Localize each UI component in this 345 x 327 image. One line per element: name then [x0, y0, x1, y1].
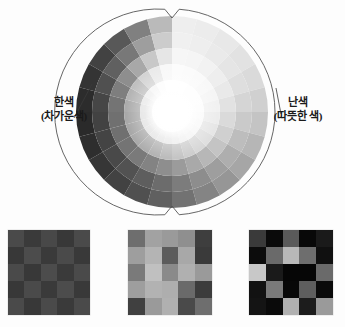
swatch-cell	[178, 247, 195, 264]
swatch-cell	[283, 281, 300, 298]
label-cool-sub: (차가운색)	[18, 110, 110, 124]
swatch-cell	[57, 230, 73, 247]
color-wheel-figure: 한색 (차가운색) 난색 (따뜻한 색)	[0, 0, 345, 218]
swatch-cell	[283, 298, 300, 315]
swatch-cell	[249, 281, 266, 298]
swatch-cell	[283, 264, 300, 281]
swatch-cell	[195, 298, 212, 315]
swatch-cell	[8, 281, 24, 298]
swatch-cell	[316, 264, 333, 281]
swatch-cell	[266, 281, 283, 298]
swatch-medium-contrast	[128, 230, 212, 315]
swatch-cell	[299, 298, 316, 315]
swatch-cell	[162, 281, 179, 298]
swatch-cell	[145, 247, 162, 264]
swatch-cell	[145, 230, 162, 247]
swatch-low-contrast	[8, 230, 90, 315]
label-warm-sub: (따뜻한 색)	[253, 110, 343, 124]
swatch-cell	[266, 264, 283, 281]
swatch-cell	[316, 281, 333, 298]
swatch-cell	[24, 230, 40, 247]
swatch-cell	[299, 230, 316, 247]
swatch-cell	[41, 281, 57, 298]
swatch-cell	[24, 264, 40, 281]
swatch-cell	[178, 281, 195, 298]
swatch-cell	[195, 247, 212, 264]
swatch-cell	[41, 298, 57, 315]
swatch-cell	[145, 298, 162, 315]
swatch-cell	[74, 230, 90, 247]
swatch-cell	[249, 264, 266, 281]
swatch-cell	[299, 264, 316, 281]
label-cool-color: 한색 (차가운색)	[18, 96, 110, 124]
swatch-cell	[145, 264, 162, 281]
swatch-cell	[74, 264, 90, 281]
swatch-cell	[8, 298, 24, 315]
swatch-cell	[74, 281, 90, 298]
label-warm-main: 난색	[253, 96, 343, 110]
swatch-cell	[316, 247, 333, 264]
swatch-cell	[266, 230, 283, 247]
swatch-cell	[178, 230, 195, 247]
swatch-cell	[195, 264, 212, 281]
swatch-cell	[8, 247, 24, 264]
swatch-cell	[128, 264, 145, 281]
swatch-cell	[249, 230, 266, 247]
swatch-cell	[162, 230, 179, 247]
swatch-cell	[24, 247, 40, 264]
swatch-cell	[128, 247, 145, 264]
swatch-cell	[41, 264, 57, 281]
swatch-cell	[74, 298, 90, 315]
swatch-cell	[41, 247, 57, 264]
swatch-cell	[57, 281, 73, 298]
swatch-cell	[57, 247, 73, 264]
swatch-cell	[283, 247, 300, 264]
swatch-cell	[266, 298, 283, 315]
label-warm-color: 난색 (따뜻한 색)	[253, 96, 343, 124]
swatch-cell	[8, 264, 24, 281]
swatch-cell	[57, 298, 73, 315]
swatch-cell	[162, 247, 179, 264]
swatch-high-contrast	[249, 230, 333, 315]
swatch-cell	[24, 298, 40, 315]
swatch-cell	[162, 298, 179, 315]
swatch-cell	[74, 247, 90, 264]
swatch-cell	[128, 230, 145, 247]
swatch-cell	[178, 264, 195, 281]
swatch-cell	[316, 230, 333, 247]
swatch-cell	[57, 264, 73, 281]
swatch-cell	[249, 247, 266, 264]
swatch-cell	[299, 247, 316, 264]
swatch-cell	[283, 230, 300, 247]
swatch-cell	[266, 247, 283, 264]
swatch-cell	[128, 298, 145, 315]
swatch-cell	[41, 230, 57, 247]
swatch-cell	[128, 281, 145, 298]
swatch-cell	[195, 230, 212, 247]
label-cool-main: 한색	[18, 96, 110, 110]
swatch-cell	[178, 298, 195, 315]
swatch-cell	[316, 298, 333, 315]
center-glow-inner	[145, 85, 199, 139]
contrast-swatch-row	[0, 218, 345, 327]
swatch-cell	[24, 281, 40, 298]
swatch-cell	[195, 281, 212, 298]
swatch-cell	[145, 281, 162, 298]
swatch-cell	[8, 230, 24, 247]
swatch-cell	[249, 298, 266, 315]
swatch-cell	[299, 281, 316, 298]
swatch-cell	[162, 264, 179, 281]
